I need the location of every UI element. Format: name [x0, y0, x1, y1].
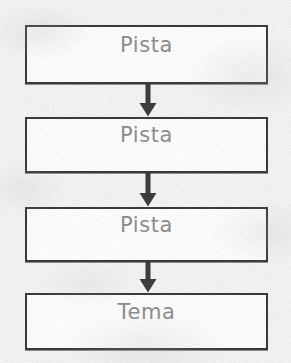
- flowchart-diagram: Pista Pista Pista Tema: [0, 0, 291, 363]
- flow-node-1-label: Pista: [27, 35, 266, 56]
- flow-node-3-label: Pista: [27, 215, 266, 236]
- flow-node-4-label: Tema: [27, 302, 266, 323]
- arrow-down-icon: [138, 173, 158, 207]
- flow-node-2[interactable]: Pista: [25, 117, 268, 173]
- flow-node-2-label: Pista: [27, 125, 266, 146]
- flow-node-1[interactable]: Pista: [25, 25, 268, 84]
- arrow-down-icon: [138, 262, 158, 293]
- arrow-down-icon: [138, 84, 158, 117]
- flow-node-3[interactable]: Pista: [25, 207, 268, 262]
- flow-node-4[interactable]: Tema: [25, 293, 268, 350]
